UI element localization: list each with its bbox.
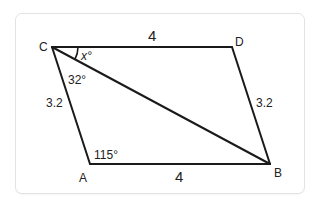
- vertex-label-c: C: [39, 40, 48, 54]
- side-label-db: 3.2: [256, 96, 273, 110]
- angle-label-x: x°: [80, 49, 92, 63]
- vertex-label-a: A: [79, 171, 87, 185]
- vertex-label-b: B: [274, 166, 282, 180]
- vertex-label-d: D: [235, 35, 244, 49]
- angle-label-115: 115°: [94, 148, 118, 162]
- side-label-cd: 4: [148, 27, 156, 44]
- parallelogram-diagram: C D B A 4 4 3.2 3.2 x° 32° 115°: [0, 0, 321, 206]
- side-label-ca: 3.2: [46, 96, 63, 110]
- angle-label-32: 32°: [68, 73, 86, 87]
- angle-arc-x: [75, 47, 78, 59]
- side-label-ab: 4: [175, 168, 183, 185]
